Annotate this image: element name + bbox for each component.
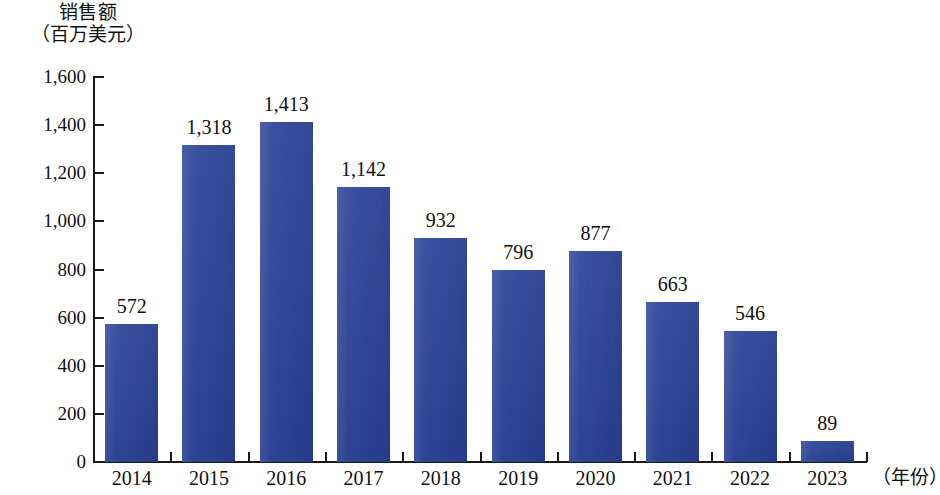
x-axis-category-label: 2017 — [325, 468, 402, 488]
y-axis-tick-label: 600 — [20, 308, 86, 327]
x-axis-category-label: 2023 — [789, 468, 866, 488]
y-axis-tick-label: 1,400 — [20, 115, 86, 134]
bar — [260, 122, 313, 462]
bar-value-label: 932 — [402, 210, 479, 230]
bar-value-label: 796 — [480, 242, 557, 262]
bar — [646, 302, 699, 462]
bar-value-label: 663 — [634, 274, 711, 294]
x-axis-category-label: 2021 — [634, 468, 711, 488]
bar — [801, 441, 854, 462]
bar — [492, 270, 545, 462]
bar-value-label: 1,413 — [248, 94, 325, 114]
x-axis-title: （年份） — [872, 468, 940, 487]
x-axis-tick — [866, 452, 868, 462]
bar-value-label: 546 — [711, 303, 788, 323]
y-axis-tick-label: 200 — [20, 404, 86, 423]
y-axis-title-line1: 销售额 — [8, 2, 168, 24]
y-axis-tick-label: 0 — [20, 452, 86, 471]
bar — [182, 145, 235, 462]
bar-value-label: 572 — [93, 296, 170, 316]
y-axis-title: 销售额 （百万美元） — [8, 2, 168, 47]
x-axis-category-label: 2019 — [480, 468, 557, 488]
bar — [414, 238, 467, 462]
y-axis-title-line2: （百万美元） — [8, 24, 168, 46]
bar — [724, 331, 777, 462]
bar-value-label: 877 — [557, 223, 634, 243]
bar-value-label: 89 — [789, 413, 866, 433]
y-axis-tick-label: 1,200 — [20, 163, 86, 182]
x-axis-category-label: 2022 — [711, 468, 788, 488]
x-axis-category-label: 2016 — [248, 468, 325, 488]
bar-value-label: 1,318 — [170, 117, 247, 137]
x-axis-category-label: 2014 — [93, 468, 170, 488]
bar — [337, 187, 390, 462]
y-axis-tick-label: 400 — [20, 356, 86, 375]
x-axis-category-label: 2018 — [402, 468, 479, 488]
bar — [105, 324, 158, 462]
y-axis-tick-label: 1,000 — [20, 211, 86, 230]
y-axis-tick-label: 800 — [20, 260, 86, 279]
x-axis-category-label: 2015 — [170, 468, 247, 488]
bar — [569, 251, 622, 462]
y-axis-tick-label: 1,600 — [20, 67, 86, 86]
bar-value-label: 1,142 — [325, 159, 402, 179]
x-axis-category-label: 2020 — [557, 468, 634, 488]
